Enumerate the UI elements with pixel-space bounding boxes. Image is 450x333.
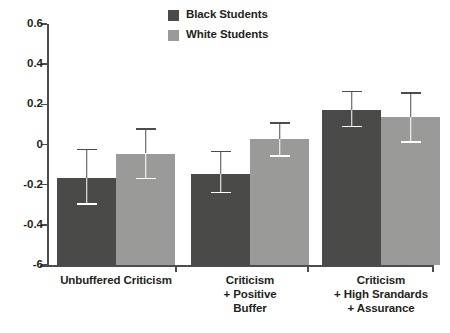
y-tick-label: 0.4 — [27, 58, 43, 70]
bar-black-students — [322, 110, 381, 265]
error-bar-cap-bottom — [270, 155, 290, 157]
error-bar-cap-bottom — [342, 126, 362, 128]
error-bar — [77, 149, 97, 205]
error-bar — [270, 122, 290, 157]
error-bar-cap-bottom — [211, 192, 231, 194]
y-tick-label: -0.4 — [23, 219, 43, 231]
y-tick-label: 0.6 — [27, 18, 43, 30]
error-bar — [342, 91, 362, 128]
bar-chart-figure: Black Students White Students 0.60.40.20… — [0, 0, 450, 333]
error-bar — [401, 92, 421, 142]
error-bar-cap-top — [136, 128, 156, 130]
x-group-separator-tick — [432, 265, 434, 272]
error-bar-cap-top — [211, 151, 231, 153]
error-bar-stem — [220, 151, 222, 194]
x-axis-line — [40, 265, 432, 267]
error-bar-cap-bottom — [136, 178, 156, 180]
error-bar-cap-bottom — [77, 203, 97, 205]
error-bar-cap-top — [77, 149, 97, 151]
error-bar-cap-top — [342, 91, 362, 93]
error-bar-stem — [145, 128, 147, 179]
legend-item-black-students: Black Students — [168, 6, 348, 24]
y-axis-line — [47, 24, 49, 265]
error-bar-cap-top — [401, 92, 421, 94]
error-bar-cap-bottom — [401, 141, 421, 143]
y-tick-label: -0.2 — [23, 179, 43, 191]
x-group-separator-tick — [307, 265, 309, 272]
x-group-separator-tick — [175, 265, 177, 272]
error-bar-cap-top — [270, 122, 290, 124]
bar-white-students — [250, 139, 309, 265]
y-tick-label: -6 — [33, 259, 43, 271]
error-bar-stem — [351, 91, 353, 128]
error-bar — [211, 151, 231, 194]
plot-area: 0.60.40.20-0.2-0.4-6 — [47, 24, 432, 265]
error-bar-stem — [410, 92, 412, 142]
error-bar — [136, 128, 156, 179]
legend-label-black-students: Black Students — [186, 9, 268, 21]
error-bar-stem — [86, 149, 88, 205]
error-bar-stem — [279, 122, 281, 157]
y-tick-label: 0 — [37, 139, 43, 151]
legend-swatch-black-students — [168, 10, 179, 21]
y-tick-label: 0.2 — [27, 99, 43, 111]
x-category-label: Criticism + High Srandards + Assurance — [291, 273, 450, 315]
